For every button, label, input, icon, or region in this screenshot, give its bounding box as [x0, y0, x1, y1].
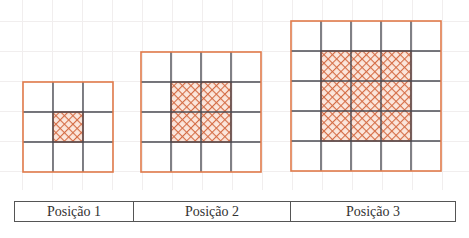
grid-figure — [290, 20, 442, 172]
figure-position-1 — [22, 81, 114, 173]
figure-position-3 — [290, 20, 442, 172]
table-cell-position-2: Posição 2 — [133, 202, 290, 221]
grid-figure — [22, 81, 114, 173]
table-cell-position-3: Posição 3 — [290, 202, 455, 221]
positions-table: Posição 1 Posição 2 Posição 3 — [14, 201, 456, 222]
shaded-region — [53, 112, 83, 142]
shaded-region — [321, 51, 411, 141]
grid-figure — [140, 51, 262, 173]
table-cell-position-1: Posição 1 — [15, 202, 133, 221]
figure-position-2 — [140, 51, 262, 173]
